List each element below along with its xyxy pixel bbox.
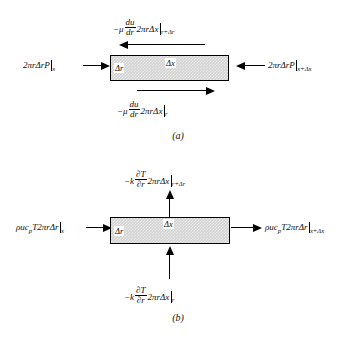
delta-r-label-a: Δr (114, 63, 124, 73)
pressure-outlet-subscript: x+Δx (297, 65, 311, 72)
label-conduction-outer: −k∂T∂r2πrΔxr+Δr (124, 170, 185, 190)
caption-b: (b) (0, 312, 356, 323)
arrow-head-left-icon (119, 41, 128, 49)
fraction-denominator: ∂r (135, 180, 146, 189)
fraction-denominator: ∂r (135, 296, 146, 305)
conduction-area-term-outer: 2πrΔx (148, 176, 170, 186)
shear-eval-subscript-outer: r+Δr (161, 28, 174, 35)
conduction-coef-outer: −k (124, 176, 134, 186)
control-volume-box-a: Δr Δx (110, 55, 229, 81)
conduction-coef-inner: −k (124, 292, 134, 302)
label-convection-inlet: ρucpT2πrΔrx (16, 222, 64, 235)
fraction-denominator: dr (129, 110, 140, 119)
shear-coef-inner: −μ (117, 106, 128, 116)
arrow-head-right-icon (101, 62, 110, 70)
arrow-shaft (127, 44, 205, 45)
convection-outlet-subscript: x+Δx (310, 227, 324, 234)
shear-area-term-inner: 2πrΔx (141, 106, 163, 116)
label-convection-outlet: ρucpT2πrΔrx+Δx (265, 222, 324, 235)
arrow-head-left-icon (236, 62, 245, 70)
convection-inlet-area-term: T2πrΔr (32, 222, 58, 232)
arrow-shaft (137, 90, 209, 91)
figure-control-volume-balances: −μdudr2πrΔxr+Δr 2πrΔrPx Δr Δx 2πrΔrPx+Δx (0, 0, 356, 341)
control-volume-box-b: Δr Δx (110, 217, 230, 244)
arrow-head-up-icon (166, 246, 174, 255)
label-shear-stress-outer: −μdudr2πrΔxr+Δr (113, 18, 174, 38)
arrow-head-right-icon (206, 87, 215, 95)
delta-x-label-b: Δx (163, 219, 174, 229)
derivative-fraction-outer: dudr (125, 18, 136, 38)
conduction-eval-subscript-inner: r (172, 296, 175, 303)
arrow-shaft (231, 227, 255, 228)
panel-b-energy-balance: −k∂T∂r2πrΔxr+Δr ρucpT2πrΔrx Δr Δx ρucpT2… (0, 165, 356, 341)
arrow-head-up-icon (166, 190, 174, 199)
label-pressure-force-inlet: 2πrΔrPx (23, 60, 55, 73)
convection-inlet-expression: ρuc (16, 222, 29, 232)
pressure-outlet-expression: 2πrΔrP (268, 60, 295, 70)
arrow-shaft (83, 65, 103, 66)
convection-outlet-expression: ρuc (265, 222, 278, 232)
partial-derivative-fraction-outer: ∂T∂r (135, 170, 146, 190)
label-conduction-inner: −k∂T∂r2πrΔxr (124, 286, 174, 306)
arrow-shaft (169, 253, 170, 279)
label-pressure-force-outlet: 2πrΔrPx+Δx (268, 60, 311, 73)
convection-outlet-area-term: T2πrΔr (281, 222, 307, 232)
conduction-area-term-inner: 2πrΔx (148, 292, 170, 302)
pressure-inlet-expression: 2πrΔrP (23, 60, 50, 70)
label-shear-stress-inner: −μdudr2πrΔxr (117, 100, 167, 120)
derivative-fraction-inner: dudr (129, 100, 140, 120)
partial-derivative-fraction-inner: ∂T∂r (135, 286, 146, 306)
shear-area-term-outer: 2πrΔx (137, 24, 159, 34)
convection-inlet-subscript: x (61, 227, 64, 234)
arrow-shaft (245, 65, 265, 66)
arrow-head-right-icon (253, 224, 262, 232)
delta-r-label-b: Δr (114, 226, 124, 236)
shear-coef-outer: −μ (113, 24, 124, 34)
delta-x-label-a: Δx (165, 58, 176, 68)
caption-a: (a) (0, 130, 356, 141)
shear-eval-subscript-inner: r (165, 110, 168, 117)
pressure-inlet-subscript: x (52, 65, 55, 72)
panel-a-momentum-balance: −μdudr2πrΔxr+Δr 2πrΔrPx Δr Δx 2πrΔrPx+Δx (0, 0, 356, 170)
fraction-denominator: dr (125, 28, 136, 37)
conduction-eval-subscript-outer: r+Δr (172, 180, 185, 187)
